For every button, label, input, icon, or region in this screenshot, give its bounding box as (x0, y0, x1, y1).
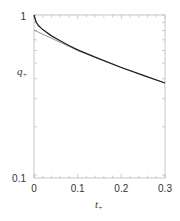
x-tick-0.1: 0.1 (71, 183, 85, 194)
x-tick-0.3: 0.3 (158, 183, 172, 194)
x-tick-0: 0 (31, 183, 37, 194)
series-asymptote (34, 30, 165, 83)
series-group (34, 15, 165, 83)
y-tick-0.1: 0.1 (12, 173, 26, 184)
y-tick-1: 1 (20, 11, 26, 22)
x-axis-label: t+ (95, 198, 103, 212)
chart: 1 0.1 0 0.1 0.2 0.3 q+ t+ (0, 0, 180, 221)
series-exact (34, 15, 165, 83)
y-axis-label: q+ (17, 65, 28, 79)
x-tick-0.2: 0.2 (114, 183, 128, 194)
